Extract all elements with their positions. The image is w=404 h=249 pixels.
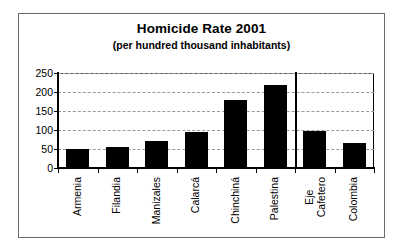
chart-frame: Homicide Rate 2001 (per hundred thousand…	[18, 13, 385, 238]
bar	[264, 85, 287, 168]
x-label-slot: Armenia	[58, 175, 98, 247]
chart-subtitle: (per hundred thousand inhabitants)	[19, 38, 384, 52]
y-tick-label: 100	[35, 125, 53, 136]
bar	[303, 131, 326, 168]
bar-slot	[256, 73, 296, 168]
x-axis-label: Colombia	[349, 177, 361, 221]
bar	[106, 147, 129, 168]
bar-slot	[58, 73, 98, 168]
y-tick-label: 50	[41, 144, 53, 155]
bar-slot	[98, 73, 138, 168]
group-separator-line	[295, 72, 297, 169]
x-axis-label: Eje Cafetero	[303, 177, 326, 217]
bar-slot	[216, 73, 256, 168]
x-axis-label: Armenia	[72, 177, 84, 216]
x-label-slot: Eje Cafetero	[295, 175, 335, 247]
bar-slot	[177, 73, 217, 168]
y-axis-line	[57, 72, 59, 169]
x-label-slot: Colombia	[335, 175, 375, 247]
x-axis-label: Palestina	[270, 177, 282, 220]
y-tick-label: 250	[35, 68, 53, 79]
bar	[185, 132, 208, 168]
x-label-slot: Palestina	[256, 175, 296, 247]
y-tick-label: 0	[47, 163, 53, 174]
x-axis-labels: ArmeniaFilandiaManizalesCalarcáChinchiná…	[58, 175, 374, 247]
x-label-slot: Filandia	[98, 175, 138, 247]
x-axis-label: Chinchiná	[230, 177, 242, 224]
x-axis-line	[57, 167, 375, 169]
bars-layer	[58, 73, 374, 168]
bar-slot	[335, 73, 375, 168]
x-axis-label: Manizales	[151, 177, 163, 224]
bar	[66, 149, 89, 168]
x-label-slot: Calarcá	[177, 175, 217, 247]
bar-slot	[137, 73, 177, 168]
x-label-slot: Chinchiná	[216, 175, 256, 247]
plot-area-wrapper: 050100150200250	[58, 73, 374, 168]
bar-slot	[295, 73, 335, 168]
title-block: Homicide Rate 2001 (per hundred thousand…	[19, 21, 384, 52]
x-axis-label: Filandia	[112, 177, 124, 214]
bar	[343, 143, 366, 168]
y-tick-label: 200	[35, 87, 53, 98]
bar	[224, 100, 247, 168]
x-label-slot: Manizales	[137, 175, 177, 247]
bar	[145, 141, 168, 168]
x-axis-label: Calarcá	[191, 177, 203, 213]
y-tick-label: 150	[35, 106, 53, 117]
chart-title: Homicide Rate 2001	[19, 21, 384, 37]
